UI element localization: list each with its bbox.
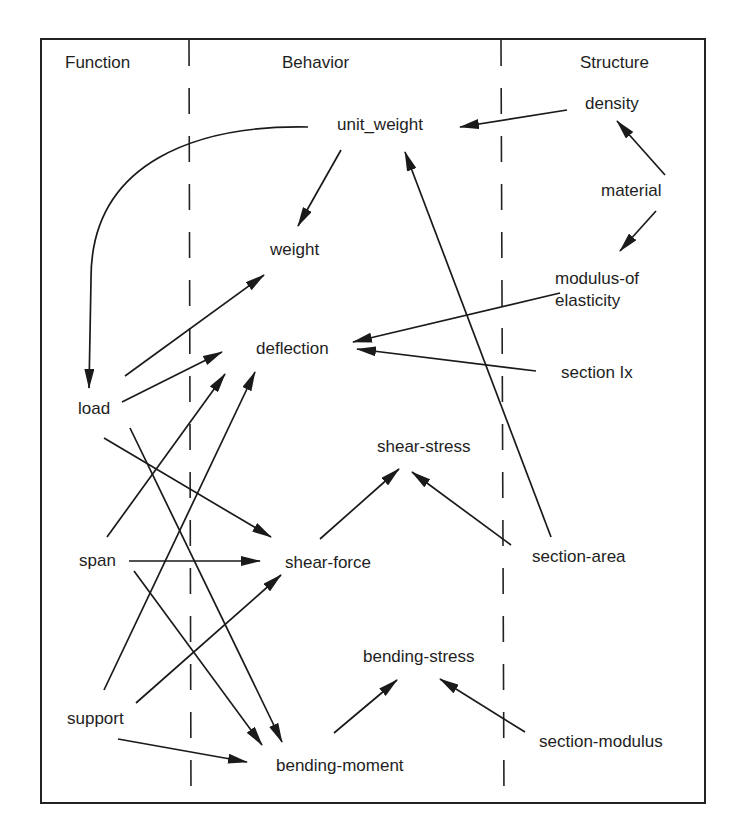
node-section-ix: section Ix <box>561 363 633 383</box>
edge-shearforce-shearstress <box>320 469 399 539</box>
node-modulus-line2: elasticity <box>555 290 639 312</box>
node-span: span <box>79 551 116 571</box>
column-header-behavior: Behavior <box>282 53 349 73</box>
node-weight: weight <box>270 240 319 260</box>
edge-material-density <box>617 121 665 175</box>
edge-span-bendingmoment <box>134 571 262 745</box>
edge-load-shearforce <box>104 438 271 537</box>
edge-sectionix-deflection <box>357 349 536 371</box>
edge-unit_weight-weight <box>298 150 341 226</box>
edge-support-bendingmoment <box>118 739 247 762</box>
node-bending-stress: bending-stress <box>363 647 475 667</box>
node-modulus-of-elasticity: modulus-of elasticity <box>555 268 639 312</box>
edge-load-deflection <box>122 352 222 402</box>
node-bending-moment: bending-moment <box>276 756 404 776</box>
node-load: load <box>78 399 110 419</box>
divider-behavior-structure <box>501 40 504 802</box>
edge-sectionarea-shearstress <box>412 472 511 545</box>
column-header-structure: Structure <box>580 53 649 73</box>
edge-sectionarea-unitweight <box>405 152 551 537</box>
node-support: support <box>67 709 124 729</box>
node-density: density <box>585 94 639 114</box>
edge-material-modulus <box>620 211 656 251</box>
node-material: material <box>601 181 661 201</box>
edge-density-unit_weight <box>460 110 567 127</box>
column-header-function: Function <box>65 53 130 73</box>
node-shear-stress: shear-stress <box>377 437 471 457</box>
node-modulus-line1: modulus-of <box>555 268 639 290</box>
edge-load-weight <box>125 275 264 376</box>
edge-support-shearforce <box>136 575 281 703</box>
function-behavior-structure-diagram: Function Behavior Structure unit_weight … <box>0 0 741 840</box>
edge-bendingmoment-bendingstress <box>334 680 397 733</box>
node-section-modulus: section-modulus <box>539 732 663 752</box>
node-shear-force: shear-force <box>285 553 371 573</box>
edge-support-deflection <box>104 372 255 690</box>
edge-modulus-deflection <box>353 293 560 342</box>
edge-sectionmodulus-bendingstress <box>440 679 525 732</box>
node-unit-weight: unit_weight <box>337 115 423 135</box>
node-section-area: section-area <box>532 547 626 567</box>
node-deflection: deflection <box>256 339 329 359</box>
edge-span-deflection <box>107 374 225 537</box>
